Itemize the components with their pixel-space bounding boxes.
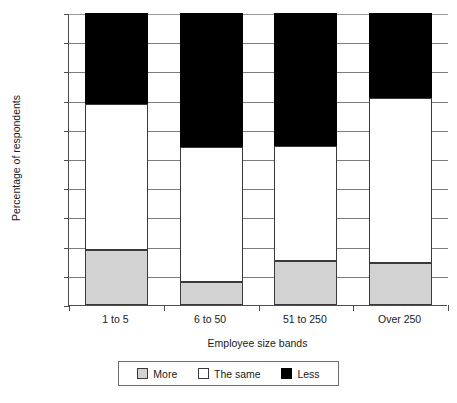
bar-segment-less (369, 13, 432, 98)
legend-item-more: More (137, 368, 177, 380)
x-tick-label: Over 250 (350, 313, 450, 325)
x-tick-label: 1 to 5 (65, 313, 165, 325)
y-tick-mark (64, 248, 69, 249)
legend-swatch-less (281, 368, 292, 379)
legend-label-less: Less (297, 368, 319, 380)
x-tick-label: 51 to 250 (255, 313, 355, 325)
y-tick-mark (64, 277, 69, 278)
legend-item-the-same: The same (198, 368, 261, 380)
y-tick-mark (64, 189, 69, 190)
y-tick-mark (64, 43, 69, 44)
x-tick-mark (448, 305, 449, 311)
legend-item-less: Less (281, 368, 319, 380)
legend-swatch-the-same (198, 368, 209, 379)
bar-segment-less (85, 13, 148, 104)
stacked-bar-chart: Percentage of respondents 0%10%20%30%40%… (0, 0, 457, 403)
x-tick-mark (259, 305, 260, 311)
y-tick-mark (64, 14, 69, 15)
y-axis-title: Percentage of respondents (10, 58, 22, 258)
chart-legend: More The same Less (118, 361, 339, 386)
legend-label-the-same: The same (214, 368, 261, 380)
bar-segment-same (274, 146, 337, 261)
bar-segment-more (274, 261, 337, 305)
y-tick-mark (64, 102, 69, 103)
bar-6-to-50 (180, 13, 243, 305)
legend-swatch-more (137, 368, 148, 379)
bar-51-to-250 (274, 13, 337, 305)
bar-segment-same (369, 98, 432, 263)
plot-area: 0%10%20%30%40%50%60%70%80%90%100% (68, 14, 447, 306)
bar-1-to-5 (85, 13, 148, 305)
bar-segment-same (85, 104, 148, 250)
x-axis-title: Employee size bands (68, 337, 447, 349)
bar-segment-less (274, 13, 337, 146)
bar-segment-more (85, 250, 148, 305)
x-tick-mark (69, 305, 70, 311)
x-tick-mark (353, 305, 354, 311)
y-tick-mark (64, 160, 69, 161)
legend-label-more: More (153, 368, 177, 380)
y-tick-mark (64, 131, 69, 132)
bar-segment-more (180, 282, 243, 305)
bar-segment-same (180, 147, 243, 281)
x-tick-mark (164, 305, 165, 311)
bar-over-250 (369, 13, 432, 305)
y-tick-mark (64, 72, 69, 73)
bar-segment-more (369, 263, 432, 305)
y-tick-mark (64, 218, 69, 219)
bar-segment-less (180, 13, 243, 147)
x-tick-label: 6 to 50 (160, 313, 260, 325)
